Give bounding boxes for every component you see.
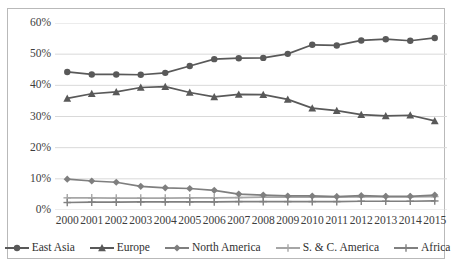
legend-label-africa: Africa — [421, 242, 450, 254]
y-axis: 0%10%20%30%40%50%60% — [10, 23, 51, 210]
y-axis-tick-label: 10% — [13, 173, 51, 185]
legend-marker-circle-icon — [4, 242, 30, 254]
data-point-circle — [407, 38, 413, 44]
data-point-diamond — [162, 184, 169, 191]
x-axis: 2000200120022003200420052006200720082009… — [55, 213, 447, 229]
legend-marker-plus-icon — [393, 242, 419, 254]
y-axis-tick-label: 30% — [13, 111, 51, 123]
data-point-diamond — [382, 193, 389, 200]
data-point-plus — [186, 198, 194, 206]
data-point-circle — [285, 51, 291, 57]
y-axis-tick-label: 50% — [13, 48, 51, 60]
data-point-plus — [235, 198, 243, 206]
data-point-plus — [137, 198, 145, 206]
data-point-diamond — [186, 185, 193, 192]
data-point-diamond — [137, 183, 144, 190]
x-axis-tick-label: 2015 — [418, 213, 452, 227]
series-line-europe — [67, 87, 435, 121]
legend-label-s-c-america: S. & C. America — [303, 242, 379, 254]
data-point-diamond — [113, 179, 120, 186]
data-point-diamond — [358, 192, 365, 199]
data-point-circle — [383, 36, 389, 42]
data-point-diamond — [309, 192, 316, 199]
data-point-plus — [259, 198, 267, 206]
legend-label-east-asia: East Asia — [32, 242, 75, 254]
data-point-circle — [309, 42, 315, 48]
data-point-plus — [210, 198, 218, 206]
data-point-circle — [211, 56, 217, 62]
chart-legend: East AsiaEuropeNorth AmericaS. & C. Amer… — [8, 237, 446, 259]
data-point-diamond — [284, 192, 291, 199]
data-point-plus — [112, 198, 120, 206]
data-point-circle — [236, 55, 242, 61]
series-line-east-asia — [67, 38, 435, 75]
data-point-circle — [162, 70, 168, 76]
data-point-diamond — [235, 191, 242, 198]
legend-marker-diamond-icon — [164, 242, 190, 254]
chart-container: 0%10%20%30%40%50%60% 2000200120022003200… — [0, 0, 454, 269]
data-point-plus — [161, 198, 169, 206]
y-axis-tick-label: 0% — [13, 204, 51, 216]
legend-marker-triangle-icon — [89, 242, 115, 254]
legend-marker-cross-icon — [275, 242, 301, 254]
chart-frame: 0%10%20%30%40%50%60% 2000200120022003200… — [7, 8, 445, 259]
data-point-circle — [89, 71, 95, 77]
data-point-plus — [88, 198, 96, 206]
series-line-north-america — [67, 179, 435, 196]
data-point-circle — [64, 69, 70, 75]
data-point-diamond — [211, 187, 218, 194]
data-point-diamond — [64, 176, 71, 183]
y-axis-tick-label: 20% — [13, 142, 51, 154]
data-point-plus — [402, 244, 410, 252]
data-point-circle — [138, 72, 144, 78]
data-point-circle — [13, 245, 19, 251]
series-line-africa — [67, 201, 435, 203]
data-point-circle — [432, 35, 438, 41]
data-point-diamond — [333, 193, 340, 200]
y-axis-tick-label: 40% — [13, 80, 51, 92]
legend-item-africa[interactable]: Africa — [393, 242, 450, 254]
data-point-diamond — [173, 244, 180, 251]
data-point-circle — [260, 55, 266, 61]
data-point-circle — [113, 71, 119, 77]
data-point-plus — [63, 199, 71, 207]
data-point-diamond — [431, 191, 438, 198]
legend-item-east-asia[interactable]: East Asia — [4, 242, 75, 254]
data-point-cross — [284, 244, 292, 252]
legend-label-north-america: North America — [192, 242, 261, 254]
data-point-circle — [358, 37, 364, 43]
line-chart-svg — [55, 23, 447, 210]
legend-item-north-america[interactable]: North America — [164, 242, 261, 254]
plot-area — [55, 23, 447, 210]
y-axis-tick-label: 60% — [13, 17, 51, 29]
legend-item-s-c-america[interactable]: S. & C. America — [275, 242, 379, 254]
data-point-circle — [334, 42, 340, 48]
legend-item-europe[interactable]: Europe — [89, 242, 150, 254]
data-point-diamond — [407, 193, 414, 200]
legend-label-europe: Europe — [117, 242, 150, 254]
data-point-circle — [187, 63, 193, 69]
